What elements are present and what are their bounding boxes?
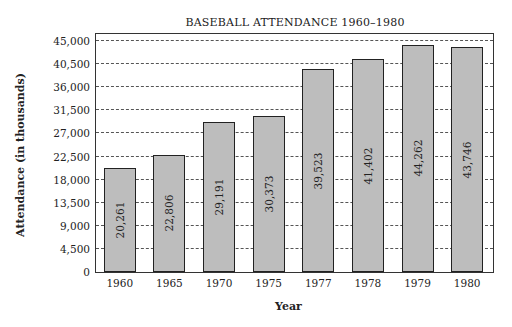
bar-1980: 43,746	[451, 47, 483, 272]
y-axis-label: Attendance (in thousands)	[14, 73, 27, 237]
bar-1965: 22,806	[153, 155, 185, 272]
bar-1975: 30,373	[253, 116, 285, 272]
y-tick-label: 45,000	[30, 35, 90, 47]
y-tick-label: 27,000	[30, 127, 90, 139]
bar-value-label: 43,746	[461, 141, 473, 178]
bar-value-label: 29,191	[213, 179, 225, 216]
y-tick-label: 0	[30, 266, 90, 278]
x-tick-label: 1960	[100, 277, 140, 289]
chart-title: BASEBALL ATTENDANCE 1960–1980	[95, 16, 495, 29]
bar-1978: 41,402	[352, 59, 384, 272]
x-tick-label: 1970	[199, 277, 239, 289]
y-tick-label: 40,500	[30, 58, 90, 70]
x-tick-label: 1980	[447, 277, 487, 289]
y-tick-label: 13,500	[30, 197, 90, 209]
bar-1979: 44,262	[402, 45, 434, 272]
x-tick-label: 1978	[348, 277, 388, 289]
y-tick-label: 22,500	[30, 151, 90, 163]
bar-1960: 20,261	[104, 168, 136, 272]
bar-1970: 29,191	[203, 122, 235, 272]
bar-value-label: 22,806	[163, 195, 175, 232]
bar-value-label: 30,373	[263, 176, 275, 213]
x-tick-label: 1979	[398, 277, 438, 289]
y-tick-label: 36,000	[30, 81, 90, 93]
y-tick-label: 4,500	[30, 243, 90, 255]
y-tick-label: 18,000	[30, 174, 90, 186]
y-tick-label: 31,500	[30, 104, 90, 116]
bar-value-label: 41,402	[362, 147, 374, 184]
x-axis-label: Year	[275, 300, 302, 313]
gridline	[96, 40, 493, 41]
x-tick-label: 1975	[249, 277, 289, 289]
bar-value-label: 39,523	[312, 152, 324, 189]
bar-value-label: 44,262	[412, 140, 424, 177]
plot-area: 20,26122,80629,19130,37339,52341,40244,2…	[95, 33, 494, 273]
bar-value-label: 20,261	[114, 202, 126, 239]
x-tick-label: 1977	[298, 277, 338, 289]
bar-1977: 39,523	[302, 69, 334, 272]
y-tick-label: 9,000	[30, 220, 90, 232]
x-tick-label: 1965	[149, 277, 189, 289]
